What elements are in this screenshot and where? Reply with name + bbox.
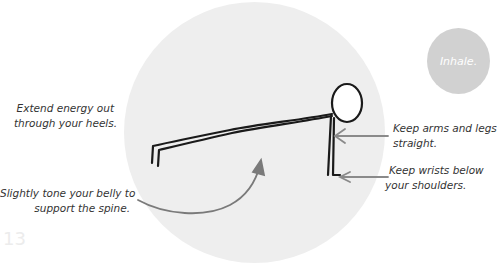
annotation-heels: Extend energy out through your heels.: [14, 101, 114, 131]
annotation-wrists: Keep wrists below your shoulders.: [385, 163, 484, 193]
annotation-heels-line2: through your heels.: [14, 116, 114, 131]
annotation-wrists-line1: Keep wrists below: [385, 163, 484, 178]
annotation-arms-line2: straight.: [393, 136, 497, 151]
annotation-belly: Slightly tone your belly to support the …: [0, 186, 130, 216]
annotation-belly-line2: support the spine.: [0, 201, 130, 216]
annotation-belly-line1: Slightly tone your belly to: [0, 186, 130, 201]
arrow-left-icon: [335, 129, 388, 143]
annotation-wrists-line2: your shoulders.: [385, 178, 484, 193]
arrow-left-icon: [340, 172, 388, 182]
annotation-arms-line1: Keep arms and legs: [393, 121, 497, 136]
stick-figure-plank-icon: [152, 84, 362, 175]
annotation-heels-line1: Extend energy out: [14, 101, 114, 116]
page-number: 13: [3, 228, 26, 249]
annotation-arms: Keep arms and legs straight.: [393, 121, 497, 151]
curved-arrow-icon: [138, 160, 264, 213]
